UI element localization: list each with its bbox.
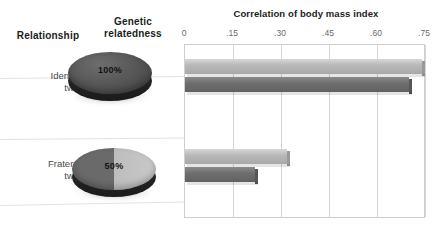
bar-chart-plot-area: Reared together Reared apart [184,44,425,218]
bar-body [185,167,255,182]
pie-label-fraternal: 50% [72,161,156,171]
bar-fraternal-twins-reared-together [185,149,287,164]
gridline [425,45,426,217]
x-tick-label: .30 [274,28,286,38]
column-header-relationship: Relationship [8,30,88,42]
pie-label-identical: 100% [68,65,152,75]
bar-shadow [187,182,258,185]
x-tick-label: .60 [370,28,382,38]
divider-rule-middle [0,137,184,140]
pie-chart-identical-relatedness: 100% [68,52,152,104]
x-tick-label: .15 [226,28,238,38]
column-header-genetic-relatedness: Genetic relatedness [88,16,178,40]
genetic-relatedness-line2: relatedness [104,28,162,39]
bar-body [185,77,409,92]
pie-chart-fraternal-relatedness: 50% [72,148,156,200]
chart-title: Correlation of body mass index [184,8,428,19]
bar-body [185,149,287,164]
bar-identical-twins-reared-together [185,59,422,74]
bar-shadow [187,92,412,95]
x-tick-label: 0 [182,28,187,38]
genetic-relatedness-line1: Genetic [114,16,152,27]
x-tick-label: .75 [418,28,430,38]
twin-study-figure: Relationship Genetic relatedness Correla… [0,0,439,228]
x-tick-label: .45 [322,28,334,38]
bar-body [185,59,422,74]
bar-fraternal-twins-reared-apart [185,167,255,182]
divider-rule-bottom [0,201,184,206]
bar-identical-twins-reared-apart [185,77,409,92]
